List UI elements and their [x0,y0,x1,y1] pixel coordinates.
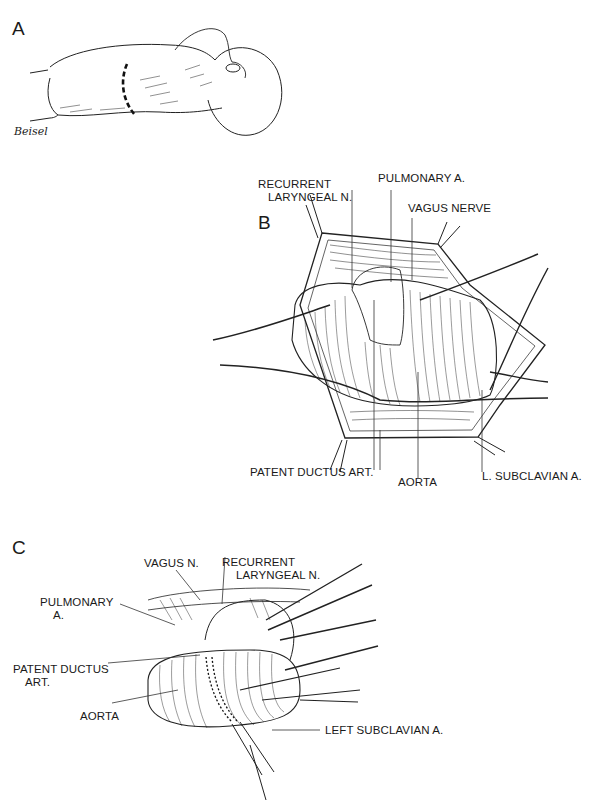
label-patent-ductus-art: PATENT DUCTUS ART. [250,466,374,479]
label-c-pulmonary-a: PULMONARY A. [40,596,114,622]
label-c-patent-ductus-art: PATENT DUCTUS ART. [13,663,109,689]
label-line-2: LARYNGEAL N. [222,569,320,582]
label-recurrent-laryngeal-n: RECURRENT LARYNGEAL N. [258,178,352,204]
label-line-2: LARYNGEAL N. [258,191,352,204]
label-c-aorta: AORTA [80,710,119,723]
label-line-1: RECURRENT [258,178,352,191]
label-vagus-nerve: VAGUS NERVE [408,202,491,215]
label-pulmonary-a: PULMONARY A. [378,172,465,185]
label-line-2: A. [40,609,114,622]
label-line-1: RECURRENT [222,556,320,569]
label-c-left-subclavian-a: LEFT SUBCLAVIAN A. [325,724,443,737]
label-c-vagus-n: VAGUS N. [144,557,199,570]
label-l-subclavian-a: L. SUBCLAVIAN A. [482,470,582,483]
label-line-2: ART. [13,676,109,689]
label-c-recurrent-laryngeal-n: RECURRENT LARYNGEAL N. [222,556,320,582]
label-line-1: PATENT DUCTUS [13,663,109,676]
panel-a-infant-illustration [0,0,604,811]
label-line-1: PULMONARY [40,596,114,609]
label-aorta: AORTA [398,476,437,489]
